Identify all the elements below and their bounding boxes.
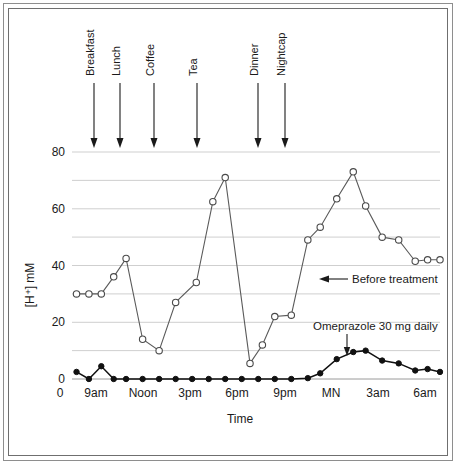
arrow-head-icon — [319, 276, 329, 283]
data-point-open — [193, 279, 199, 285]
arrow-head-icon — [91, 138, 98, 148]
data-point-open — [317, 224, 323, 230]
event-label-tea: Tea — [187, 57, 199, 76]
figure-container: 80 60 40 20 0 [H⁺] mM 0 9am Noon 3pm 6pm… — [0, 0, 456, 465]
y-axis-tick-labels: 80 60 40 20 0 — [52, 145, 66, 386]
series-omeprazole — [74, 348, 443, 382]
data-point-filled — [99, 364, 104, 369]
x-tick-label-6am: 6am — [413, 386, 436, 400]
x-tick-label-6pm: 6pm — [225, 386, 248, 400]
data-point-filled — [305, 375, 310, 380]
x-axis-tick-labels: 0 9am Noon 3pm 6pm 9pm MN 3am 6am — [57, 386, 437, 400]
x-axis-title: Time — [227, 412, 254, 426]
arrow-head-icon — [344, 347, 350, 356]
data-point-open — [73, 291, 79, 297]
data-point-filled — [437, 369, 442, 374]
data-point-filled — [173, 376, 178, 381]
data-point-open — [437, 257, 443, 263]
chart-plot-area: 80 60 40 20 0 [H⁺] mM 0 9am Noon 3pm 6pm… — [0, 0, 456, 465]
x-tick-label-0: 0 — [57, 386, 64, 400]
data-point-filled — [239, 376, 244, 381]
data-point-filled — [334, 356, 339, 361]
data-point-filled — [363, 348, 368, 353]
x-tick-label-3pm: 3pm — [178, 386, 201, 400]
data-point-filled — [74, 369, 79, 374]
data-point-filled — [396, 361, 401, 366]
data-point-filled — [156, 376, 161, 381]
data-point-filled — [123, 376, 128, 381]
data-point-filled — [318, 371, 323, 376]
arrow-head-icon — [255, 138, 262, 148]
data-point-filled — [413, 368, 418, 373]
data-point-filled — [223, 376, 228, 381]
series-line — [77, 172, 440, 364]
data-point-filled — [111, 376, 116, 381]
x-tick-label-mn: MN — [322, 386, 341, 400]
data-point-open — [139, 336, 145, 342]
data-point-open — [272, 313, 278, 319]
data-point-open — [259, 342, 265, 348]
event-label-breakfast: Breakfast — [84, 30, 96, 76]
data-point-open — [172, 299, 178, 305]
data-point-open — [334, 196, 340, 202]
data-point-open — [412, 258, 418, 264]
data-point-open — [86, 291, 92, 297]
event-markers: Breakfast Lunch Coffee Tea Dinner — [84, 30, 289, 148]
data-point-open — [222, 174, 228, 180]
y-tick-label-80: 80 — [52, 145, 66, 159]
data-point-open — [424, 257, 430, 263]
data-point-open — [210, 198, 216, 204]
x-tick-label-9am: 9am — [84, 386, 107, 400]
annotation-label-before-treatment: Before treatment — [352, 273, 438, 285]
data-point-filled — [256, 376, 261, 381]
arrow-head-icon — [194, 138, 201, 148]
y-axis-title: [H⁺] mM — [23, 263, 37, 308]
y-tick-label-0: 0 — [58, 372, 65, 386]
annotation-before-treatment: Before treatment — [319, 273, 438, 285]
event-marker-coffee: Coffee — [144, 44, 158, 148]
data-point-open — [123, 255, 129, 261]
event-marker-lunch: Lunch — [110, 46, 124, 148]
data-point-filled — [189, 376, 194, 381]
y-tick-label-40: 40 — [52, 259, 66, 273]
data-point-filled — [86, 376, 91, 381]
event-marker-breakfast: Breakfast — [84, 30, 98, 148]
data-point-open — [362, 203, 368, 209]
event-label-nightcap: Nightcap — [275, 33, 287, 76]
data-point-filled — [206, 376, 211, 381]
series-line — [77, 351, 440, 379]
data-point-open — [350, 169, 356, 175]
data-point-open — [98, 291, 104, 297]
arrow-head-icon — [117, 138, 124, 148]
x-tick-label-noon: Noon — [129, 386, 158, 400]
data-point-open — [288, 312, 294, 318]
event-label-lunch: Lunch — [110, 46, 122, 76]
data-point-open — [379, 234, 385, 240]
data-point-open — [396, 237, 402, 243]
y-tick-label-60: 60 — [52, 202, 66, 216]
data-point-filled — [351, 349, 356, 354]
data-point-open — [111, 274, 117, 280]
data-point-open — [156, 347, 162, 353]
data-point-filled — [425, 366, 430, 371]
data-point-open — [305, 237, 311, 243]
data-point-open — [247, 360, 253, 366]
y-tick-label-20: 20 — [52, 315, 66, 329]
x-tick-label-3am: 3am — [366, 386, 389, 400]
data-point-filled — [272, 376, 277, 381]
event-marker-nightcap: Nightcap — [275, 33, 289, 148]
data-point-filled — [140, 376, 145, 381]
event-label-dinner: Dinner — [248, 43, 260, 76]
event-marker-dinner: Dinner — [248, 43, 262, 148]
annotation-label-omeprazole: Omeprazole 30 mg daily — [313, 320, 438, 332]
data-point-filled — [289, 376, 294, 381]
arrow-head-icon — [282, 138, 289, 148]
x-tick-label-9pm: 9pm — [273, 386, 296, 400]
series-before-treatment — [73, 169, 443, 367]
event-label-coffee: Coffee — [144, 44, 156, 76]
event-marker-tea: Tea — [187, 57, 201, 148]
data-point-filled — [379, 358, 384, 363]
arrow-head-icon — [151, 138, 158, 148]
